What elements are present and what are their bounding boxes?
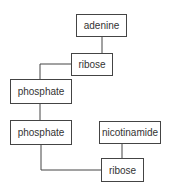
node-label: ribose — [78, 59, 105, 70]
node-label: adenine — [84, 20, 120, 31]
node-label: phosphate — [18, 86, 65, 97]
node-label: nicotinamide — [102, 127, 158, 138]
node-label: phosphate — [18, 127, 65, 138]
node-phosphate-2: phosphate — [10, 120, 72, 145]
node-label: ribose — [109, 165, 136, 176]
node-nicotinamide: nicotinamide — [99, 121, 161, 144]
node-ribose-top: ribose — [71, 53, 113, 76]
node-phosphate-1: phosphate — [10, 79, 72, 104]
node-ribose-bottom: ribose — [101, 158, 144, 182]
node-adenine: adenine — [76, 14, 127, 37]
